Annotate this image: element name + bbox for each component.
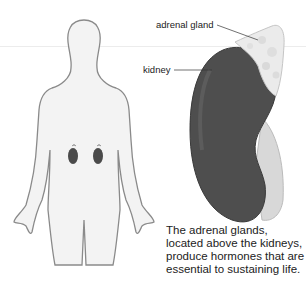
kidney-label: kidney <box>143 64 170 75</box>
adrenal-leader-line <box>217 25 258 40</box>
body-silhouette-icon <box>14 20 154 265</box>
adrenal-diagram: adrenal gland kidney The adrenal glands,… <box>0 0 306 290</box>
adrenal-gland-label: adrenal gland <box>156 19 214 30</box>
large-kidney-icon <box>190 25 284 222</box>
caption: The adrenal glands, located above the ki… <box>166 224 306 276</box>
